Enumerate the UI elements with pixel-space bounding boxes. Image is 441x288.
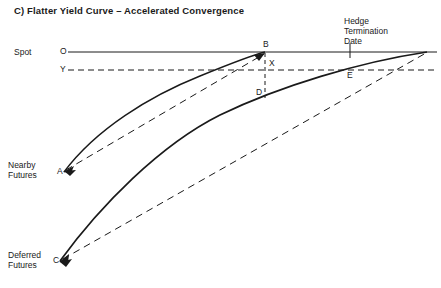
point-label-d: D: [256, 88, 262, 97]
axis-label-deferred-futures-line1: Deferred: [8, 250, 41, 261]
point-label-e: E: [347, 71, 353, 80]
axis-label-nearby-futures-line2: Futures: [8, 170, 37, 181]
axis-label-deferred-futures-line2: Futures: [8, 260, 37, 271]
point-label-a: A: [57, 167, 63, 176]
point-label-o: O: [60, 47, 67, 56]
axis-label-spot: Spot: [14, 47, 32, 58]
deferred-futures-basis-line: [63, 53, 426, 259]
point-label-b: B: [263, 40, 269, 49]
nearby-futures-basis-line: [66, 54, 264, 170]
axis-label-nearby-futures-line1: Nearby: [8, 160, 35, 171]
point-label-y: Y: [60, 65, 66, 74]
point-label-x: X: [269, 59, 275, 68]
annotation-hedge-termination-line1: Hedge: [344, 16, 369, 27]
point-label-c: C: [53, 256, 59, 265]
futures-convergence-plot: [0, 0, 441, 288]
annotation-hedge-termination-line2: Termination: [344, 26, 388, 37]
figure-container: C) Flatter Yield Curve – Accelerated Con…: [0, 0, 441, 288]
figure-title: C) Flatter Yield Curve – Accelerated Con…: [14, 5, 244, 16]
annotation-hedge-termination-line3: Date: [344, 36, 362, 47]
arrowhead-a-dashed: [64, 170, 76, 176]
